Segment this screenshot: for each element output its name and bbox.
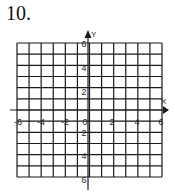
x-tick-label: -2 [61,117,69,127]
y-tick-label: 6 [81,175,86,185]
x-tick-label: 0 [82,117,87,127]
x-tick-label: 2 [109,117,114,127]
x-tick-label: -4 [37,117,45,127]
x-tick-label: 6 [158,117,163,127]
y-tick-label: 4 [81,151,86,161]
coordinate-grid: X Y -6 -4 -2 0 2 4 6 6 4 2 2 4 6 [0,0,175,193]
y-tick-label: 2 [81,128,86,138]
y-tick-label: 6 [81,39,86,49]
y-tick-label: 4 [81,63,86,73]
x-tick-label: -6 [14,117,22,127]
x-axis-label: X [161,97,167,106]
y-axis-label: Y [91,30,97,39]
y-tick-label: 2 [81,87,86,97]
x-tick-label: 4 [134,117,139,127]
y-tick-labels: 6 4 2 2 4 6 [81,39,86,185]
x-tick-labels: -6 -4 -2 0 2 4 6 [14,117,164,127]
x-axis-arrow-icon [163,106,169,114]
